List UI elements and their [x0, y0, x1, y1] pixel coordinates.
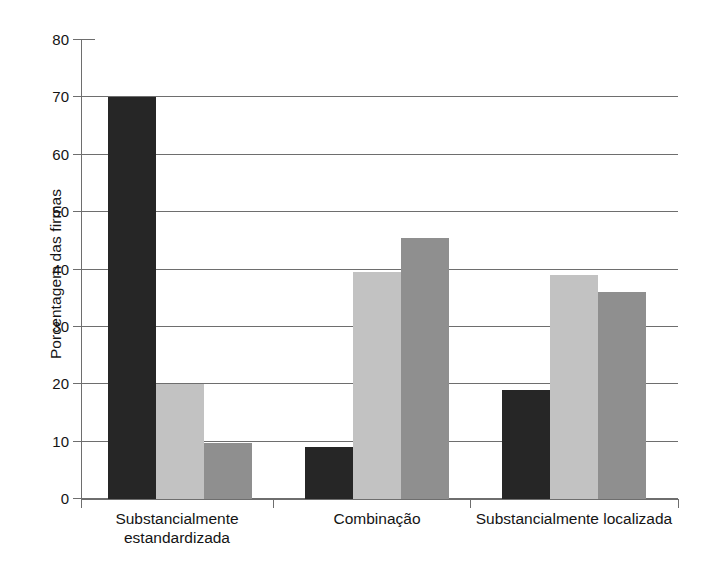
y-tick-mark-0: [73, 498, 81, 499]
y-tick-mark-50: [73, 211, 81, 212]
category-label-1: Substancialmenteestandardizada: [62, 509, 292, 548]
category-label-3: Substancialmente localizada: [444, 509, 704, 528]
y-tick-label-20: 20: [52, 375, 69, 392]
gridline-70: 70: [81, 96, 678, 97]
bar-g2-s2: [353, 272, 401, 499]
y-tick-mark-30: [73, 326, 81, 327]
category-label-line: Substancialmente localizada: [444, 509, 704, 528]
bar-g3-s2: [550, 275, 598, 499]
gridline-80: 80: [81, 39, 95, 40]
y-tick-label-80: 80: [52, 31, 69, 48]
bar-g2-s3: [401, 238, 449, 499]
y-tick-label-60: 60: [52, 145, 69, 162]
y-tick-label-50: 50: [52, 203, 69, 220]
gridline-50: 50: [81, 211, 678, 212]
y-tick-mark-10: [73, 441, 81, 442]
bar-chart: Porcentagem das firmas 01020304050607080…: [0, 0, 704, 579]
y-tick-label-10: 10: [52, 432, 69, 449]
y-tick-mark-70: [73, 96, 81, 97]
bar-g1-s2: [156, 384, 204, 499]
gridline-60: 60: [81, 154, 678, 155]
x-axis-line: [81, 499, 678, 500]
y-tick-mark-20: [73, 383, 81, 384]
y-tick-label-40: 40: [52, 260, 69, 277]
bar-g1-s1: [108, 97, 156, 499]
bar-g1-s3: [204, 443, 252, 499]
bar-g3-s3: [598, 292, 646, 499]
category-tick-1: [81, 499, 82, 508]
y-tick-mark-60: [73, 154, 81, 155]
bar-g2-s1: [305, 447, 353, 499]
y-tick-mark-40: [73, 269, 81, 270]
y-tick-label-30: 30: [52, 317, 69, 334]
y-tick-label-0: 0: [61, 490, 69, 507]
category-tick-3: [470, 499, 471, 508]
y-tick-label-70: 70: [52, 88, 69, 105]
category-tick-4: [678, 499, 679, 508]
category-label-line: estandardizada: [62, 528, 292, 547]
bar-g3-s1: [502, 390, 550, 499]
category-label-line: Substancialmente: [62, 509, 292, 528]
category-tick-2: [273, 499, 274, 508]
plot-area: 01020304050607080: [81, 40, 678, 499]
y-tick-mark-80: [73, 39, 81, 40]
gridline-40: 40: [81, 269, 678, 270]
